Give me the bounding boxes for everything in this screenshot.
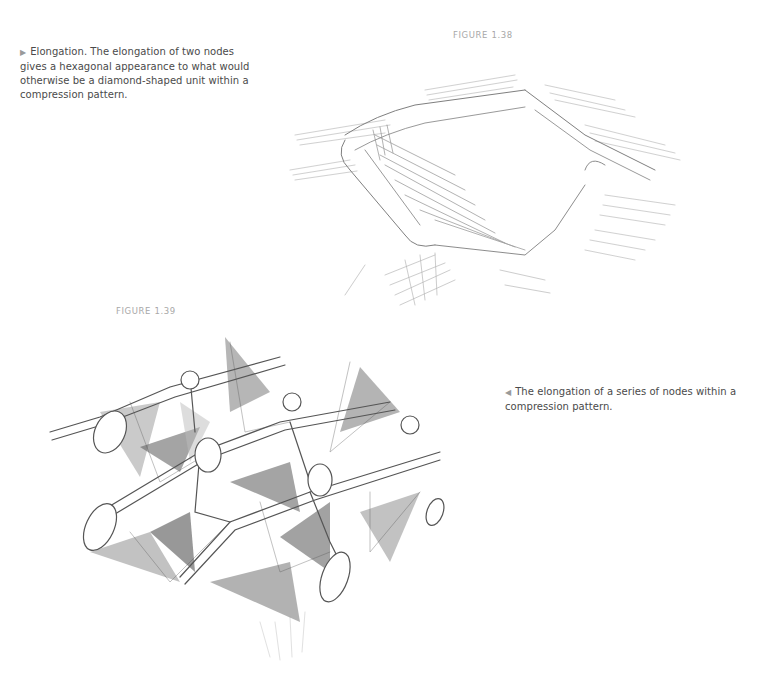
figure-1-39-caption: ◀The elongation of a series of nodes wit… [505,385,765,414]
caption-line: ▶Elongation. The elongation of two nodes [20,45,280,60]
figure-1-39-sketch [30,322,450,662]
caption-line: compression pattern. [505,400,765,414]
figure-1-38-sketch [285,55,705,330]
left-triangle-icon: ◀ [505,388,511,397]
caption-line: compression pattern. [20,88,280,102]
figure-1-39-label: FIGURE 1.39 [116,306,176,316]
figure-1-38-label: FIGURE 1.38 [453,30,513,40]
right-triangle-icon: ▶ [20,48,26,57]
caption-line: gives a hexagonal appearance to what wou… [20,60,280,74]
caption-line: ◀The elongation of a series of nodes wit… [505,385,765,400]
figure-1-38-caption: ▶Elongation. The elongation of two nodes… [20,45,280,102]
caption-line: otherwise be a diamond-shaped unit withi… [20,74,280,88]
